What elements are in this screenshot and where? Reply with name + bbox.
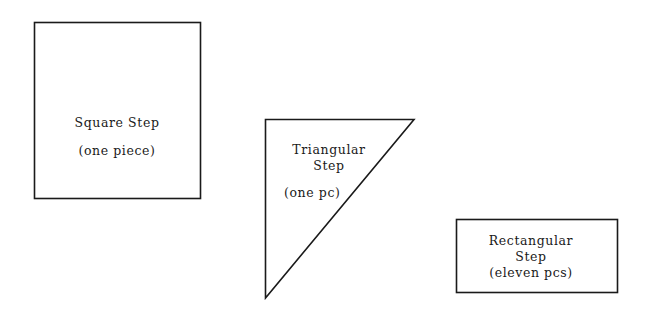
- square-step-quantity: (one piece): [71, 145, 163, 158]
- square-step-title: Square Step: [71, 117, 163, 130]
- triangular-step-quantity: (one pc): [284, 187, 348, 200]
- rectangular-step-quantity: (eleven pcs): [476, 267, 586, 280]
- square-step-shape: [35, 23, 201, 199]
- rectangular-step-title-line1: Rectangular: [476, 235, 586, 248]
- triangular-step-title-line1: Triangular: [285, 144, 373, 157]
- rectangular-step-title-line2: Step: [476, 251, 586, 264]
- triangular-step-title-line2: Step: [285, 160, 373, 173]
